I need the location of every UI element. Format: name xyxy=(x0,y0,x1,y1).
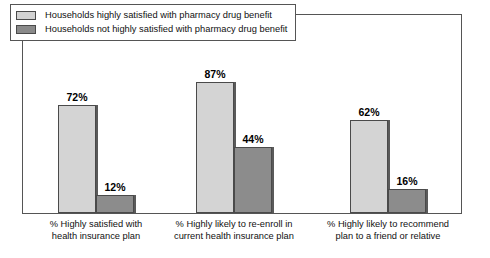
category-label-3-line1: % Highly likely to recommend xyxy=(298,219,478,231)
plot-frame xyxy=(22,14,462,214)
category-label-2: % Highly likely to re-enroll in current … xyxy=(144,219,324,242)
category-label-2-line2: current health insurance plan xyxy=(144,231,324,243)
legend-swatch-light-icon xyxy=(16,11,36,20)
category-label-3-line2: plan to a friend or relative xyxy=(298,231,478,243)
legend-item-label: Households not highly satisfied with pha… xyxy=(45,24,287,35)
category-axis-labels: % Highly satisfied with health insurance… xyxy=(0,219,490,257)
legend-item-label: Households highly satisfied with pharmac… xyxy=(45,10,272,21)
legend-item-highly-satisfied: Households highly satisfied with pharmac… xyxy=(16,9,287,22)
category-label-2-line1: % Highly likely to re-enroll in xyxy=(144,219,324,231)
category-label-3: % Highly likely to recommend plan to a f… xyxy=(298,219,478,242)
legend-item-not-highly-satisfied: Households not highly satisfied with pha… xyxy=(16,23,287,36)
bar-chart-figure: Households highly satisfied with pharmac… xyxy=(0,0,490,258)
chart-legend: Households highly satisfied with pharmac… xyxy=(10,4,296,41)
legend-swatch-dark-icon xyxy=(16,25,36,34)
